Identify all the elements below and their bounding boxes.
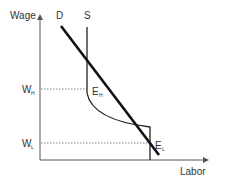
y-axis-label: Wage [10,10,36,21]
svg-text:E: E [155,140,162,151]
wage-high-label: W H [22,84,35,96]
svg-text:E: E [92,86,99,97]
svg-text:H: H [31,90,35,96]
demand-label: D [56,10,63,21]
x-axis-label: Labor [180,166,206,177]
svg-text:L: L [31,144,34,150]
svg-text:H: H [99,92,103,98]
svg-text:L: L [162,146,165,152]
demand-curve [61,26,159,155]
labor-market-diagram: Wage Labor D S W H W L E H E L [0,0,232,187]
supply-label: S [84,10,91,21]
equilibrium-high-label: E H [92,86,103,98]
equilibrium-low-label: E L [155,140,165,152]
wage-low-label: W L [22,138,34,150]
